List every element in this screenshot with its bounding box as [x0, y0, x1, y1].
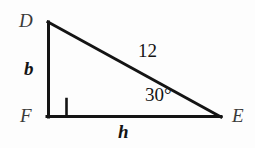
figure-canvas: D F E b h 12 30°: [0, 0, 255, 148]
side-label-b: b: [24, 59, 34, 78]
vertex-label-d: D: [19, 11, 33, 30]
right-angle-marker-icon: [49, 99, 67, 117]
angle-measure-label: 30°: [145, 85, 172, 104]
hypotenuse-length-label: 12: [138, 41, 157, 60]
vertex-label-e: E: [232, 106, 244, 125]
side-label-h: h: [118, 122, 129, 141]
hypotenuse-DE: [48, 22, 221, 117]
vertex-label-f: F: [20, 106, 32, 125]
